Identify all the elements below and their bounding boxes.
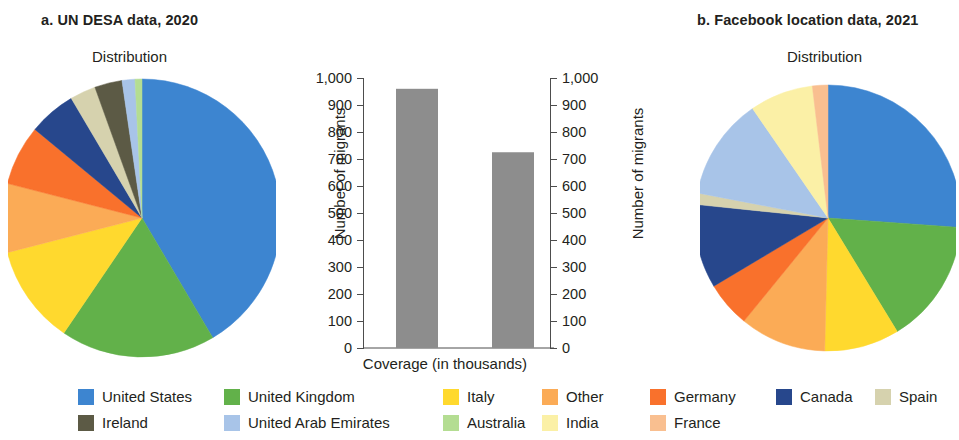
axis-tick-label: 400 [328, 233, 352, 248]
axis-tick-label: 0 [344, 341, 352, 356]
bar [492, 152, 534, 348]
legend-swatch-icon [542, 415, 558, 431]
axis-tick-label: 800 [562, 125, 586, 140]
axis-tick-mark [357, 348, 364, 349]
pie-chart-panel-b [700, 72, 956, 364]
bar [396, 89, 438, 348]
axis-tick-label: 800 [328, 125, 352, 140]
legend-item-label: Ireland [102, 414, 148, 431]
legend-swatch-icon [875, 389, 891, 405]
axis-tick-label: 600 [562, 179, 586, 194]
panel-b-title: b. Facebook location data, 2021 [697, 12, 918, 28]
legend-swatch-icon [224, 389, 240, 405]
axis-tick-label: 600 [328, 179, 352, 194]
legend-item[interactable]: Spain [875, 388, 937, 405]
pie-a-svg [8, 72, 276, 364]
axis-tick-label: 0 [562, 341, 570, 356]
pie-chart-panel-a [8, 72, 276, 364]
axis-tick-label: 500 [328, 206, 352, 221]
bar-chart-y-axis-label-right: Number of migrants [629, 89, 646, 259]
panel-a-subtitle: Distribution [92, 48, 167, 65]
legend-item[interactable]: United Kingdom [224, 388, 355, 405]
legend-item[interactable]: United States [78, 388, 192, 405]
legend-item[interactable]: France [650, 414, 721, 431]
axis-tick-label: 200 [328, 287, 352, 302]
pie-slice [828, 85, 956, 228]
pie-b-svg [700, 72, 956, 364]
legend-item[interactable]: Other [542, 388, 604, 405]
legend-swatch-icon [776, 389, 792, 405]
axis-tick-label: 400 [562, 233, 586, 248]
legend-item[interactable]: India [542, 414, 599, 431]
panel-b-subtitle: Distribution [787, 48, 862, 65]
legend-swatch-icon [542, 389, 558, 405]
legend-swatch-icon [443, 389, 459, 405]
legend-item-label: Canada [800, 388, 853, 405]
axis-tick-label: 900 [562, 98, 586, 113]
chart-legend: United StatesUnited KingdomItalyOtherGer… [0, 386, 959, 440]
bar-chart-x-axis-label: Coverage (in thousands) [320, 355, 570, 372]
axis-tick-label: 300 [328, 260, 352, 275]
legend-swatch-icon [78, 389, 94, 405]
axis-tick-label: 900 [328, 98, 352, 113]
axis-tick-label: 1,000 [562, 71, 598, 86]
legend-item-label: Germany [674, 388, 736, 405]
legend-swatch-icon [224, 415, 240, 431]
legend-item-label: Australia [467, 414, 525, 431]
legend-item-label: United States [102, 388, 192, 405]
bar-chart: Number of migrants Number of migrants Co… [298, 60, 628, 385]
legend-item-label: Other [566, 388, 604, 405]
legend-item[interactable]: Ireland [78, 414, 148, 431]
legend-item[interactable]: Australia [443, 414, 525, 431]
legend-swatch-icon [650, 415, 666, 431]
legend-item[interactable]: Germany [650, 388, 736, 405]
axis-tick-label: 100 [328, 314, 352, 329]
legend-item-label: United Kingdom [248, 388, 355, 405]
legend-swatch-icon [650, 389, 666, 405]
legend-item[interactable]: United Arab Emirates [224, 414, 390, 431]
axis-tick-label: 700 [562, 152, 586, 167]
bar-chart-plot-area [364, 60, 554, 352]
axis-tick-label: 100 [562, 314, 586, 329]
legend-item-label: United Arab Emirates [248, 414, 390, 431]
axis-tick-label: 300 [562, 260, 586, 275]
bar-chart-yticks-left: 01002003004005006007008009001,000 [318, 60, 364, 352]
legend-item[interactable]: Italy [443, 388, 495, 405]
legend-item-label: Spain [899, 388, 937, 405]
legend-swatch-icon [78, 415, 94, 431]
panel-a-title: a. UN DESA data, 2020 [41, 12, 198, 28]
legend-item-label: Italy [467, 388, 495, 405]
axis-tick-label: 200 [562, 287, 586, 302]
legend-item[interactable]: Canada [776, 388, 853, 405]
legend-item-label: France [674, 414, 721, 431]
legend-swatch-icon [443, 415, 459, 431]
axis-tick-label: 500 [562, 206, 586, 221]
axis-tick-label: 1,000 [316, 71, 352, 86]
bar-chart-yticks-right: 01002003004005006007008009001,000 [548, 60, 594, 352]
legend-item-label: India [566, 414, 599, 431]
axis-tick-label: 700 [328, 152, 352, 167]
